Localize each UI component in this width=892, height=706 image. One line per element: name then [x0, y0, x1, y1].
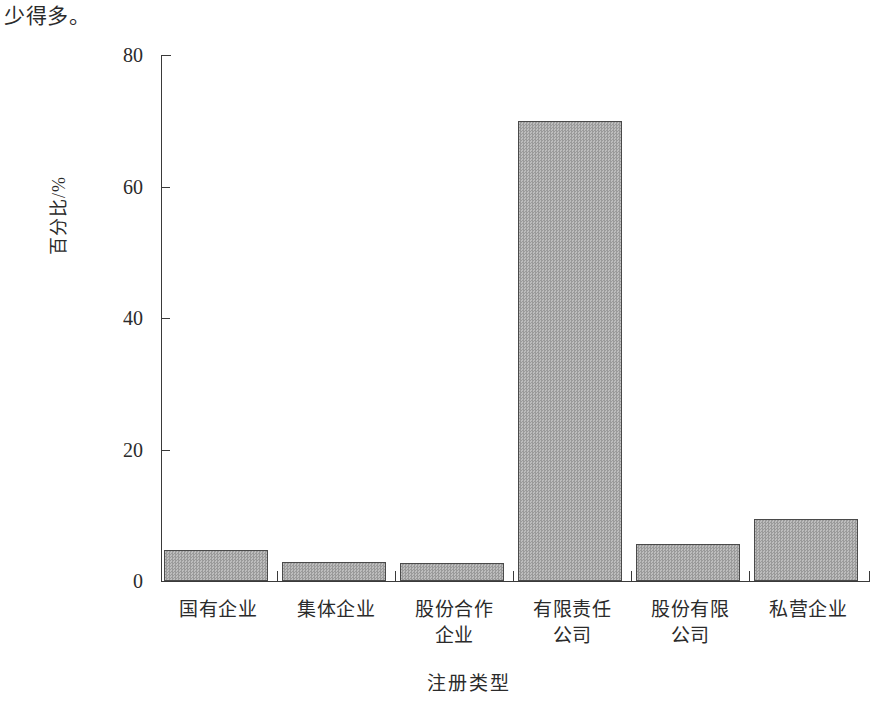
bar-0	[164, 550, 268, 581]
plot-area: 0 20 40 60 80	[161, 55, 869, 581]
y-tick-label-0: 0	[83, 571, 161, 591]
y-tick-label-60: 60	[83, 177, 161, 197]
x-axis-line	[161, 581, 870, 582]
x-category-label-0: 国有企业	[164, 597, 272, 623]
y-tick-label-20: 20	[83, 440, 161, 460]
y-tick-0	[161, 581, 170, 582]
x-tick-3	[513, 571, 514, 582]
y-tick-40	[161, 318, 170, 319]
x-category-label-4: 股份有限 公司	[636, 597, 744, 649]
y-axis-title: 百分比/%	[50, 176, 68, 255]
x-tick-1	[277, 571, 278, 582]
x-axis-title-text: 注册类型	[381, 673, 511, 694]
bar-4	[636, 544, 740, 581]
x-category-label-1: 集体企业	[282, 597, 390, 623]
y-tick-label-80: 80	[83, 45, 161, 65]
bar-chart-figure: 0 20 40 60 80 国有企业 集体企业 股份合作 企业 有限责任 公司 …	[0, 0, 892, 706]
y-tick-20	[161, 450, 170, 451]
y-tick-60	[161, 187, 170, 188]
x-category-label-4-line-1: 公司	[636, 623, 744, 649]
x-axis-right-cap-tick	[869, 571, 870, 582]
x-category-label-1-line-0: 集体企业	[282, 597, 390, 623]
x-tick-5	[749, 571, 750, 582]
x-category-label-2-line-0: 股份合作	[400, 597, 508, 623]
y-axis-top-cap-tick	[161, 55, 171, 56]
x-category-label-3-line-1: 公司	[518, 623, 626, 649]
bar-1	[282, 562, 386, 581]
bar-5	[754, 519, 858, 581]
x-category-label-2: 股份合作 企业	[400, 597, 508, 649]
bar-2	[400, 563, 504, 581]
x-category-label-0-line-0: 国有企业	[164, 597, 272, 623]
x-category-label-2-line-1: 企业	[400, 623, 508, 649]
y-tick-label-40: 40	[83, 308, 161, 328]
x-category-label-3-line-0: 有限责任	[518, 597, 626, 623]
x-tick-2	[395, 571, 396, 582]
x-category-label-5: 私营企业	[754, 597, 862, 623]
x-axis-title: 注册类型	[0, 668, 892, 695]
x-category-label-4-line-0: 股份有限	[636, 597, 744, 623]
x-tick-4	[631, 571, 632, 582]
bar-3	[518, 121, 622, 581]
x-category-label-3: 有限责任 公司	[518, 597, 626, 649]
x-category-label-5-line-0: 私营企业	[754, 597, 862, 623]
